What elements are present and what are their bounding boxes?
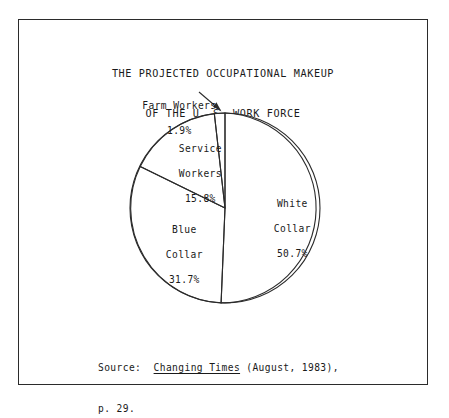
- pie-label-white-collar-value: 50.7%: [277, 248, 308, 259]
- pie-label-service-workers-name-1: Service: [179, 143, 222, 154]
- pie-label-farm-workers-name: Farm Workers: [142, 100, 216, 111]
- source-label: Source:: [98, 362, 141, 373]
- source-issue: (August, 1983),: [246, 362, 339, 373]
- pie-label-white-collar: White Collar 50.7%: [243, 186, 317, 273]
- pie-label-white-collar-name-1: White: [277, 198, 308, 209]
- source-citation-line-1: Source: Changing Times (August, 1983),: [98, 361, 339, 375]
- pie-label-white-collar-name-2: Collar: [274, 223, 311, 234]
- pie-label-blue-collar-name-2: Collar: [166, 249, 203, 260]
- pie-label-service-workers-name-2: Workers: [179, 168, 222, 179]
- chart-title-line-1: THE PROJECTED OCCUPATIONAL MAKEUP: [18, 67, 428, 80]
- pie-label-blue-collar: Blue Collar 31.7%: [133, 212, 211, 299]
- pie-label-service-workers: Service Workers 15.8%: [148, 131, 228, 218]
- pie-label-blue-collar-name-1: Blue: [172, 224, 197, 235]
- pie-label-service-workers-value: 15.8%: [185, 193, 216, 204]
- source-citation: Source: Changing Times (August, 1983), p…: [98, 334, 339, 418]
- pie-label-blue-collar-value: 31.7%: [169, 274, 200, 285]
- source-citation-line-2: p. 29.: [98, 402, 339, 416]
- source-publication-title: Changing Times: [154, 362, 240, 373]
